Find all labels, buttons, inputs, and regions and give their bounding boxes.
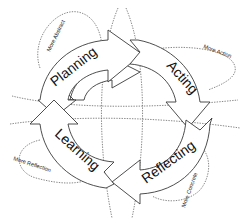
axis-label-more-abstract: More Abstract <box>46 18 67 52</box>
diagram-canvas: Planning Acting Reflecting Learning More… <box>0 0 249 224</box>
learning-cycle-diagram: Planning Acting Reflecting Learning More… <box>0 0 249 224</box>
axis-label-more-reflection: More Reflection <box>13 155 52 173</box>
axis-label-more-action: More Action <box>203 43 233 59</box>
